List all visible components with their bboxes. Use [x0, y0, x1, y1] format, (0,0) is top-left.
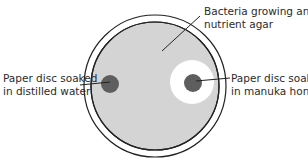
label-agar: Bacteria growing an nutrient agar	[204, 5, 308, 30]
label-water-disc: Paper disc soaked in distilled water	[3, 72, 97, 97]
label-honey-line2: in manuka honey	[231, 85, 308, 98]
label-water-line1: Paper disc soaked	[3, 72, 97, 85]
label-agar-line1: Bacteria growing an	[204, 5, 308, 18]
disc-distilled-water	[101, 75, 119, 93]
disc-manuka-honey	[184, 74, 202, 92]
label-honey-line1: Paper disc soaked	[231, 72, 308, 85]
petri-dish-diagram: Bacteria growing an nutrient agar Paper …	[0, 0, 308, 167]
label-water-line2: in distilled water	[3, 85, 97, 98]
label-agar-line2: nutrient agar	[204, 18, 308, 31]
label-honey-disc: Paper disc soaked in manuka honey	[231, 72, 308, 97]
